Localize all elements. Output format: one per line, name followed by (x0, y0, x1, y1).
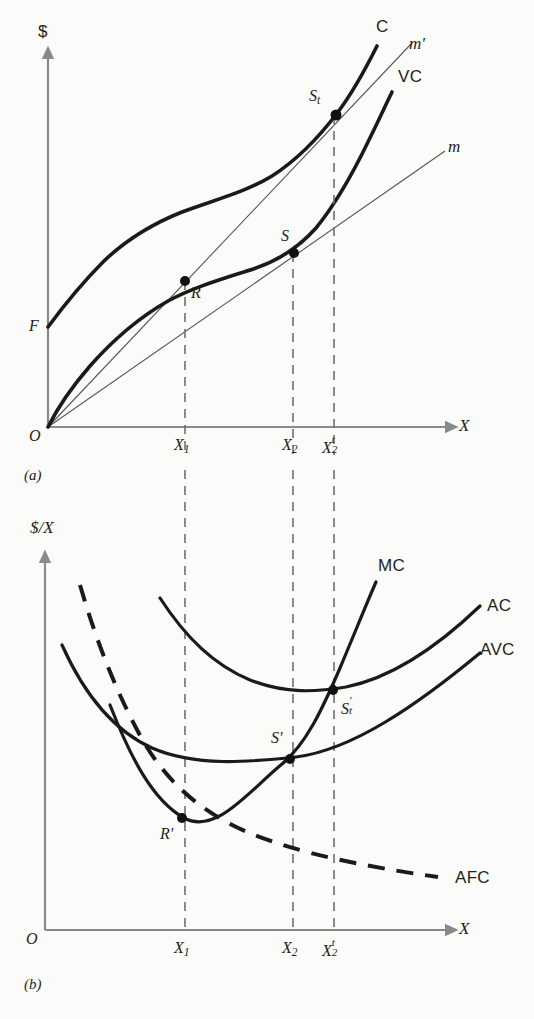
curve-label-ray-m-prime: m' (409, 35, 425, 52)
point-label-St-base: S (309, 87, 317, 104)
point-label-R-prime: R' (160, 826, 173, 842)
point-marker-S (289, 248, 299, 258)
panel-b-tick-x2t-base: X (322, 942, 332, 959)
panel-a-tick-x2t-scripts: t 2 (332, 437, 341, 453)
point-marker-R-prime (177, 813, 187, 823)
curve-label-average-cost: AC (487, 597, 511, 614)
point-marker-St (331, 110, 342, 121)
curve-label-marginal-cost: MC (378, 557, 405, 574)
point-label-St-subscript: t (317, 94, 320, 106)
panel-b-caption: (b) (24, 977, 42, 992)
panel-a-x-axis-label: X (459, 417, 469, 434)
panel-a-fixed-cost-label: F (29, 318, 39, 334)
ray-m-line (48, 151, 445, 427)
point-label-St-prime: S ' t (341, 698, 358, 717)
cost-curves-figure: $ X O F C m' VC m R S St X1 X2 X t 2 (a)… (0, 0, 534, 1019)
inter-panel-connectors (185, 470, 334, 930)
panel-b-tick-x2t-subscript: 2 (332, 947, 338, 958)
point-marker-S-prime (285, 754, 295, 764)
curve-label-average-variable-cost: AVC (480, 641, 515, 658)
panel-a-tick-x1-subscript: 1 (184, 443, 190, 455)
panel-a-tick-x2-base: X (282, 436, 292, 453)
point-label-S-prime: S' (271, 730, 282, 746)
panel-b-y-axis-label: $/X (30, 519, 54, 536)
curve-label-average-fixed-cost: AFC (455, 869, 490, 886)
panel-a-tick-x1: X1 (174, 437, 190, 456)
point-label-R: R (191, 285, 201, 301)
point-marker-St-prime (328, 685, 338, 695)
curve-label-variable-cost: VC (398, 68, 422, 85)
curve-total-cost-C (48, 46, 377, 327)
panel-b-tick-x2t-scripts: t 2 (332, 940, 341, 956)
panel-b-origin-label: O (26, 931, 38, 947)
panel-a-tick-x1-base: X (174, 436, 184, 453)
panel-a-tick-x2: X2 (282, 437, 298, 456)
panel-a-tick-x2-subscript: 2 (292, 443, 298, 455)
panel-a-axes (48, 52, 452, 427)
curve-average-cost-AC (160, 598, 480, 691)
panel-a-tick-x2t-base: X (322, 439, 332, 456)
panel-a-y-axis-label: $ (38, 23, 47, 40)
point-label-St-prime-scripts: ' t (349, 698, 358, 714)
panel-a-origin-label: O (29, 428, 41, 444)
panel-a-tick-x2t-subscript: 2 (332, 444, 338, 455)
point-label-St-prime-subscript: t (349, 705, 352, 716)
ray-m-prime-line (48, 43, 412, 427)
panel-b-tick-x2: X2 (282, 940, 298, 959)
point-label-St: St (309, 88, 320, 107)
panel-b-x-axis-label: X (459, 920, 469, 937)
panel-b-axes (45, 556, 452, 930)
panel-b-tick-x1-subscript: 1 (184, 946, 190, 958)
panel-a-caption: (a) (24, 468, 42, 483)
curve-variable-cost-VC (48, 92, 392, 427)
curve-average-fixed-cost-AFC (80, 585, 438, 877)
point-label-S: S (281, 228, 289, 244)
panel-b-tick-x1: X1 (174, 940, 190, 959)
panel-a-tick-x2t: X t 2 (322, 437, 341, 456)
curve-label-total-cost: C (376, 18, 389, 35)
point-label-St-prime-base: S (341, 700, 349, 717)
point-marker-R (180, 276, 190, 286)
panel-b-tick-x2-subscript: 2 (292, 946, 298, 958)
panel-b-tick-x2t: X t 2 (322, 940, 341, 959)
panel-a-rays (48, 43, 445, 427)
panel-b-tick-x2-base: X (282, 939, 292, 956)
panel-b-tick-x1-base: X (174, 939, 184, 956)
curve-label-ray-m: m (448, 138, 460, 155)
curve-marginal-cost-MC (110, 582, 376, 822)
